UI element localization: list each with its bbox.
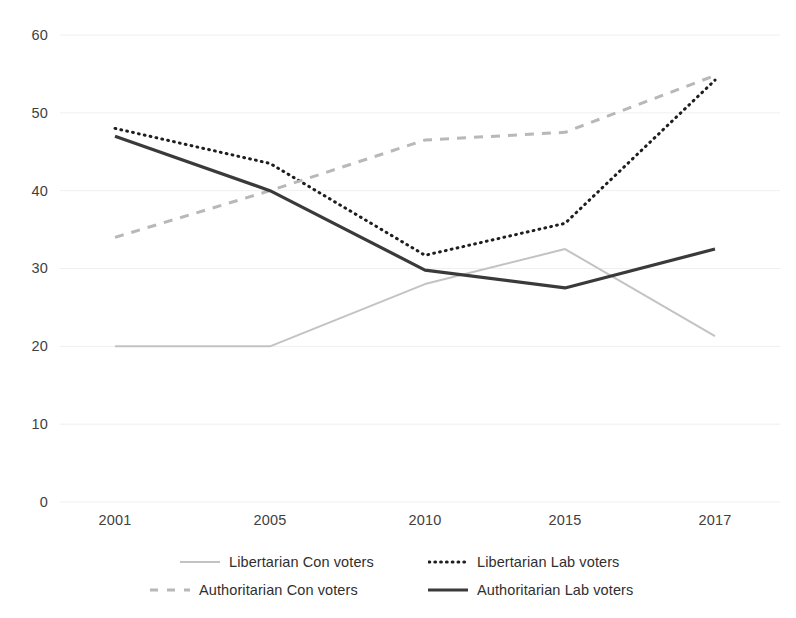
legend-swatch-dashed-light-icon [150, 584, 190, 596]
y-tick-30: 30 [4, 260, 48, 276]
legend-row-2: Authoritarian Con voters Authoritarian L… [150, 576, 750, 604]
legend-swatch-solid-light-icon [180, 556, 220, 568]
legend-swatch-dotted-dark-icon [428, 556, 468, 568]
x-tick-2005: 2005 [225, 512, 315, 528]
legend-label-authoritarian-con: Authoritarian Con voters [199, 582, 358, 598]
legend-item-libertarian-con[interactable]: Libertarian Con voters [180, 554, 428, 570]
legend-label-libertarian-lab: Libertarian Lab voters [477, 554, 619, 570]
legend-item-authoritarian-con[interactable]: Authoritarian Con voters [150, 582, 428, 598]
chart-legend: Libertarian Con voters Libertarian Lab v… [150, 548, 750, 604]
y-tick-20: 20 [4, 338, 48, 354]
legend-label-authoritarian-lab: Authoritarian Lab voters [477, 582, 633, 598]
y-tick-0: 0 [4, 494, 48, 510]
line-chart: 60 50 40 30 20 10 0 2001 2005 2010 2015 … [0, 0, 796, 618]
series-line-authoritarian-lab-voters [115, 136, 715, 288]
legend-label-libertarian-con: Libertarian Con voters [229, 554, 374, 570]
legend-item-libertarian-lab[interactable]: Libertarian Lab voters [428, 554, 688, 570]
legend-swatch-solid-dark-icon [428, 584, 468, 596]
x-tick-2015: 2015 [520, 512, 610, 528]
x-tick-2001: 2001 [70, 512, 160, 528]
series-line-authoritarian-con-voters [115, 75, 715, 237]
y-tick-40: 40 [4, 183, 48, 199]
y-tick-50: 50 [4, 105, 48, 121]
legend-row-1: Libertarian Con voters Libertarian Lab v… [150, 548, 750, 576]
y-tick-60: 60 [4, 27, 48, 43]
x-tick-2017: 2017 [670, 512, 760, 528]
y-tick-10: 10 [4, 416, 48, 432]
legend-item-authoritarian-lab[interactable]: Authoritarian Lab voters [428, 582, 688, 598]
x-tick-2010: 2010 [380, 512, 470, 528]
